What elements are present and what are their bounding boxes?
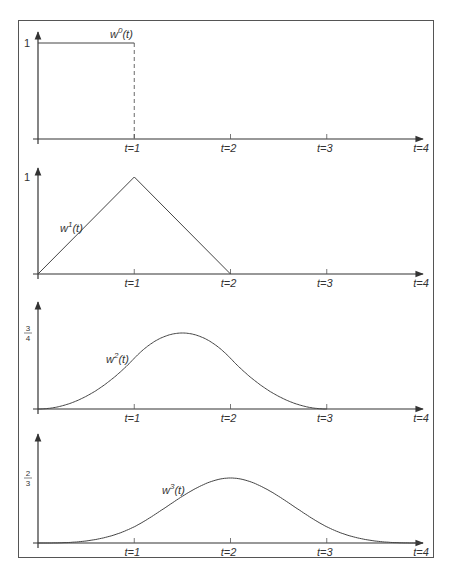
x-tick-label: t=3 xyxy=(317,142,333,154)
x-tick-label: t=1 xyxy=(124,277,140,289)
x-tick-label: t=4 xyxy=(413,412,429,424)
y-tick-label: 1 xyxy=(24,171,30,183)
curve-w2 xyxy=(38,333,327,409)
x-tick-label: t=1 xyxy=(124,142,140,154)
curve-w3 xyxy=(38,478,423,543)
b-spline-basis-figure: t=1t=2t=3t=41w0(t)t=1t=2t=3t=41w1(t)t=1t… xyxy=(0,0,451,575)
x-tick-label: t=3 xyxy=(317,277,333,289)
y-tick-numerator: 3 xyxy=(26,324,31,333)
x-tick-label: t=2 xyxy=(221,277,237,289)
curve-label: w2(t) xyxy=(106,351,129,365)
curve-label: w0(t) xyxy=(110,26,133,40)
panel-w0: t=1t=2t=3t=41w0(t) xyxy=(24,26,429,154)
y-tick-denominator: 4 xyxy=(26,334,31,343)
figure-frame xyxy=(19,21,434,558)
x-tick-label: t=4 xyxy=(413,277,429,289)
x-tick-label: t=2 xyxy=(221,546,237,558)
y-tick-numerator: 2 xyxy=(26,469,31,478)
x-tick-label: t=3 xyxy=(317,546,333,558)
x-tick-label: t=1 xyxy=(124,546,140,558)
x-tick-label: t=2 xyxy=(221,142,237,154)
curve-label: w1(t) xyxy=(60,220,83,234)
y-tick-denominator: 3 xyxy=(26,479,31,488)
panel-w2: t=1t=2t=3t=434w2(t) xyxy=(24,302,429,424)
x-tick-label: t=2 xyxy=(221,412,237,424)
panel-w3: t=1t=2t=3t=423w3(t) xyxy=(24,434,429,558)
x-tick-label: t=4 xyxy=(413,546,429,558)
y-tick-label: 1 xyxy=(24,37,30,49)
x-tick-label: t=3 xyxy=(317,412,333,424)
x-tick-label: t=4 xyxy=(413,142,429,154)
panel-w1: t=1t=2t=3t=41w1(t) xyxy=(24,168,429,289)
curve-label: w3(t) xyxy=(162,482,185,496)
x-tick-label: t=1 xyxy=(124,412,140,424)
